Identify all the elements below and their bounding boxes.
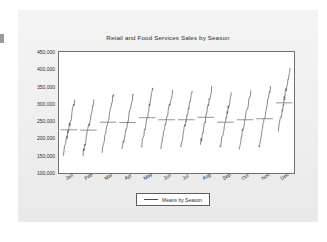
chart-legend: Means by Season [136, 193, 210, 206]
y-tick-label: 300,000 [37, 101, 55, 107]
legend-label: Means by Season [162, 197, 202, 203]
season-series-line [259, 86, 271, 147]
chart-card: Retail and Food Services Sales by Season… [18, 10, 318, 222]
y-tick-label: 200,000 [37, 135, 55, 141]
y-tick-label: 400,000 [37, 66, 55, 72]
chart-title: Retail and Food Services Sales by Season [18, 34, 318, 41]
season-series-line [278, 68, 290, 131]
chart-screenshot: Retail and Food Services Sales by Season… [0, 0, 327, 242]
season-series-line [102, 94, 114, 153]
legend-line-icon [144, 199, 158, 200]
season-series-line [122, 94, 134, 149]
season-series-line [83, 99, 95, 156]
plot-series-svg [59, 52, 294, 173]
y-tick-label: 350,000 [37, 84, 55, 90]
season-series-line [63, 100, 75, 156]
season-series-line [220, 92, 232, 147]
y-axis-labels: 450,000400,000350,000300,000250,000200,0… [18, 51, 55, 174]
plot-area [58, 51, 295, 174]
y-tick-label: 250,000 [37, 118, 55, 124]
y-tick-label: 450,000 [37, 49, 55, 55]
y-tick-label: 100,000 [37, 170, 55, 176]
y-tick-label: 150,000 [37, 153, 55, 159]
edge-artifact [0, 34, 4, 43]
season-series-line [200, 86, 212, 144]
season-series-line [180, 91, 192, 147]
